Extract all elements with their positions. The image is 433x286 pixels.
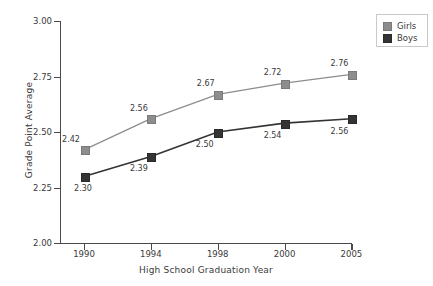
data-point-marker-boys[interactable] — [81, 173, 90, 182]
data-point-marker-girls[interactable] — [81, 146, 90, 155]
legend-swatch-girls-icon — [383, 22, 392, 31]
data-point-marker-girls[interactable] — [214, 91, 223, 100]
data-point-label-girls: 2.72 — [258, 69, 288, 77]
data-point-label-boys: 2.30 — [68, 185, 98, 193]
data-point-marker-girls[interactable] — [281, 80, 290, 89]
x-axis-title: High School Graduation Year — [0, 265, 412, 275]
data-point-marker-boys[interactable] — [147, 153, 156, 162]
data-point-marker-boys[interactable] — [281, 120, 290, 129]
legend-label-boys: Boys — [397, 34, 418, 43]
data-point-label-girls: 2.76 — [324, 60, 354, 68]
data-point-label-boys: 2.50 — [190, 141, 220, 149]
legend-swatch-boys-icon — [383, 34, 392, 43]
data-point-label-boys: 2.54 — [258, 132, 288, 140]
data-point-marker-boys[interactable] — [348, 115, 357, 124]
data-point-label-girls: 2.67 — [191, 80, 221, 88]
chart-figure: Grade Point Average 2.002.252.502.753.00… — [0, 0, 433, 286]
legend-item-boys[interactable]: Boys — [383, 32, 427, 44]
data-point-marker-girls[interactable] — [147, 115, 156, 124]
data-point-label-girls: 2.42 — [56, 136, 86, 144]
data-point-label-boys: 2.39 — [124, 165, 154, 173]
chart-legend: Girls Boys — [376, 14, 428, 47]
data-point-marker-boys[interactable] — [214, 129, 223, 138]
data-point-label-boys: 2.56 — [324, 128, 354, 136]
legend-label-girls: Girls — [397, 22, 416, 31]
data-point-marker-girls[interactable] — [348, 71, 357, 80]
data-point-label-girls: 2.56 — [124, 105, 154, 113]
legend-item-girls[interactable]: Girls — [383, 20, 427, 32]
